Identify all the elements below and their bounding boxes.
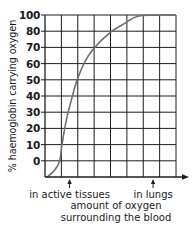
y-tick-label: 10 [26, 139, 40, 150]
x-axis-arrow-icon [182, 174, 189, 180]
y-tick-label: 80 [26, 26, 40, 37]
y-axis-label: % haemoglobin carrying oxygen [7, 20, 18, 172]
x-axis [45, 174, 189, 188]
x-annotation-label: in active tissues [29, 190, 110, 200]
y-tick-label: 100 [19, 10, 40, 21]
y-tick-label: 60 [26, 58, 40, 69]
y-axis-label-container: % haemoglobin carrying oxygen [0, 15, 24, 177]
y-tick-label: 0 [33, 156, 40, 167]
y-tick-label: 20 [26, 123, 40, 134]
x-axis-label: amount of oxygen surrounding the blood [61, 200, 171, 224]
x-annotation-label: in lungs [133, 190, 172, 200]
y-tick-label: 40 [26, 91, 40, 102]
x-axis-label-line-2: surrounding the blood [61, 212, 171, 224]
annotation-arrow-icon [151, 179, 155, 188]
y-tick-label: 70 [26, 42, 40, 53]
y-tick-label: 50 [26, 75, 40, 86]
y-tick-label: 30 [26, 107, 40, 118]
annotation-arrow-icon [67, 179, 71, 188]
x-axis-label-line-1: amount of oxygen [61, 200, 171, 212]
